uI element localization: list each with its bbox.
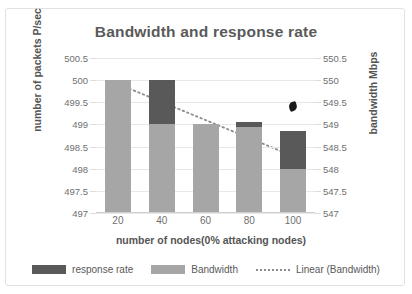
bar-group[interactable] — [236, 58, 262, 213]
chart-legend: response rate Bandwidth Linear (Bandwidt… — [6, 264, 406, 275]
y-axis-right-tick-mark — [315, 213, 321, 214]
legend-swatch-bandwidth — [151, 265, 185, 274]
bar-segment-bandwidth[interactable] — [149, 124, 175, 213]
bar-group[interactable] — [193, 58, 219, 213]
y-axis-right-tick-label: 547.5 — [323, 185, 347, 196]
y-axis-right-tick-mark — [315, 102, 321, 103]
y-axis-left-tick-label: 497 — [72, 208, 88, 219]
bar-segment-bandwidth[interactable] — [280, 169, 306, 213]
bar-segment-bandwidth[interactable] — [105, 80, 131, 213]
chart-container: Bandwidth and response rate 497497.54984… — [5, 8, 405, 286]
bar-segment-bandwidth[interactable] — [236, 127, 262, 213]
y-axis-left-tick-label: 500.5 — [64, 53, 88, 64]
x-axis-tick-labels: 20406080100 — [96, 215, 315, 231]
x-axis-tick-label: 40 — [156, 215, 167, 226]
y-axis-right-title: bandwidth Mbps — [367, 38, 379, 148]
y-axis-left-title: number of packets P/sec — [31, 0, 43, 143]
bar-segment-response-rate[interactable] — [280, 131, 306, 169]
y-axis-left-tick-mark — [90, 80, 96, 81]
bar-group[interactable] — [149, 58, 175, 213]
y-axis-left-tick-mark — [90, 147, 96, 148]
y-axis-right-tick-label: 548 — [323, 163, 339, 174]
x-axis-tick-label: 100 — [285, 215, 302, 226]
x-axis-title: number of nodes(0% attacking nodes) — [66, 234, 356, 246]
y-axis-left-tick-label: 500 — [72, 75, 88, 86]
y-axis-left-tick-label: 498.5 — [64, 141, 88, 152]
y-axis-right-tick-mark — [315, 80, 321, 81]
y-axis-right-tick-label: 547 — [323, 208, 339, 219]
y-axis-left-tick-mark — [90, 169, 96, 170]
y-axis-right-tick-mark — [315, 124, 321, 125]
y-axis-left-tick-label: 498 — [72, 163, 88, 174]
y-axis-right-tick-label: 550.5 — [323, 53, 347, 64]
y-axis-right-tick-mark — [315, 191, 321, 192]
legend-swatch-response-rate — [32, 265, 66, 274]
legend-label-bandwidth: Bandwidth — [191, 264, 238, 275]
y-axis-right-tick-mark — [315, 58, 321, 59]
legend-item-linear-bandwidth[interactable]: Linear (Bandwidth) — [256, 264, 380, 275]
y-axis-right-tick-label: 550 — [323, 75, 339, 86]
y-axis-left-tick-mark — [90, 58, 96, 59]
legend-label-response-rate: response rate — [72, 264, 133, 275]
gridline — [96, 213, 315, 214]
legend-label-linear-bandwidth: Linear (Bandwidth) — [296, 264, 380, 275]
y-axis-left-tick-mark — [90, 213, 96, 214]
bar-segment-response-rate[interactable] — [236, 122, 262, 126]
y-axis-right-tick-label: 549.5 — [323, 97, 347, 108]
x-axis-tick-label: 80 — [244, 215, 255, 226]
plot-area — [96, 58, 315, 213]
y-axis-left-tick-label: 499.5 — [64, 97, 88, 108]
bar-group[interactable] — [280, 58, 306, 213]
x-axis-tick-label: 60 — [200, 215, 211, 226]
y-axis-left-tick-mark — [90, 124, 96, 125]
legend-swatch-linear-bandwidth — [256, 269, 290, 271]
bar-segment-response-rate[interactable] — [149, 80, 175, 124]
y-axis-right-tick-label: 549 — [323, 119, 339, 130]
x-axis-tick-label: 20 — [112, 215, 123, 226]
bar-segment-bandwidth[interactable] — [193, 124, 219, 213]
bar-group[interactable] — [105, 58, 131, 213]
legend-item-response-rate[interactable]: response rate — [32, 264, 133, 275]
y-axis-right-tick-mark — [315, 147, 321, 148]
y-axis-left-tick-label: 499 — [72, 119, 88, 130]
y-axis-left-tick-mark — [90, 102, 96, 103]
y-axis-left-tick-label: 497.5 — [64, 185, 88, 196]
y-axis-left-tick-mark — [90, 191, 96, 192]
x-axis-line — [96, 212, 315, 213]
legend-item-bandwidth[interactable]: Bandwidth — [151, 264, 238, 275]
y-axis-right-tick-mark — [315, 169, 321, 170]
y-axis-left-tick-labels: 497497.5498498.5499499.5500500.5 — [6, 9, 88, 294]
y-axis-right-tick-label: 548.5 — [323, 141, 347, 152]
